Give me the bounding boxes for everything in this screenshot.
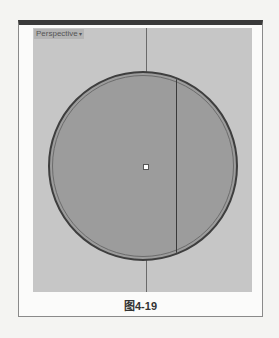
perspective-viewport[interactable]: Perspective▾ [33, 28, 252, 292]
center-point[interactable] [143, 164, 149, 170]
chevron-down-icon: ▾ [79, 31, 82, 37]
figure-frame: Perspective▾ 图4-19 [18, 20, 263, 317]
figure-caption: 图4-19 [19, 297, 262, 313]
seam-line [176, 73, 177, 259]
viewport-title: Perspective [36, 29, 78, 38]
viewport-title-dropdown[interactable]: Perspective▾ [34, 29, 84, 39]
